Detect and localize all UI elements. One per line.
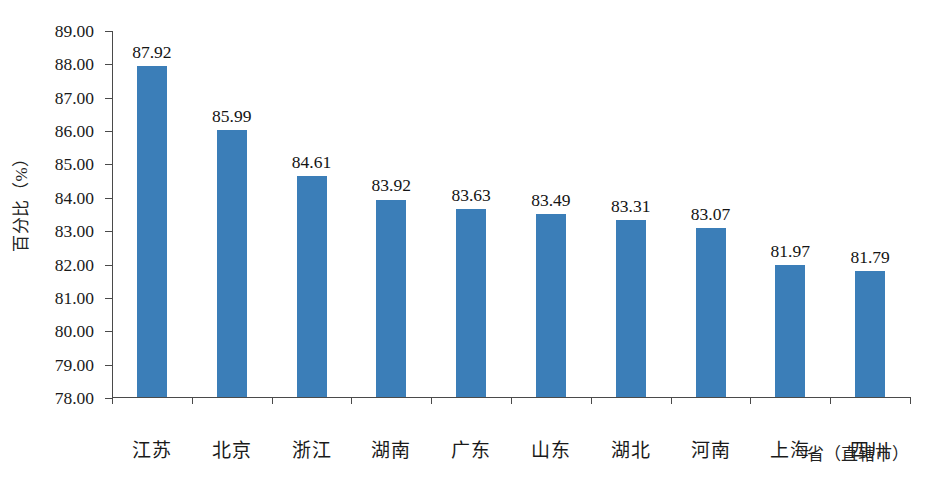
x-axis-category-label: 湖北 — [611, 435, 651, 462]
x-axis-tick — [591, 397, 592, 404]
bar — [775, 265, 805, 397]
bar-value-label: 83.63 — [451, 185, 490, 206]
bar — [456, 209, 486, 397]
y-axis-tick-label: 86.00 — [55, 121, 94, 142]
x-axis-category-label: 上海 — [770, 435, 810, 462]
bar — [137, 66, 167, 397]
y-axis-tick-label: 78.00 — [55, 388, 94, 409]
bar — [297, 176, 327, 397]
x-axis-category-label: 北京 — [212, 435, 252, 462]
y-axis-tick-label: 89.00 — [55, 21, 94, 42]
x-axis-tick — [431, 397, 432, 404]
y-axis-tick: 78.00 — [105, 398, 112, 399]
y-axis-tick: 86.00 — [105, 131, 112, 132]
x-axis-tick — [750, 397, 751, 404]
x-axis-tick — [112, 397, 113, 404]
bar-value-label: 83.92 — [372, 175, 411, 196]
bar — [376, 200, 406, 398]
y-axis-tick: 80.00 — [105, 331, 112, 332]
x-axis-tick — [910, 397, 911, 404]
bar — [696, 228, 726, 397]
y-axis-tick-label: 85.00 — [55, 154, 94, 175]
x-axis-category-label: 浙江 — [292, 435, 332, 462]
x-axis-category-label: 山东 — [531, 435, 571, 462]
y-axis-tick: 88.00 — [105, 64, 112, 65]
x-axis-category-label: 河南 — [691, 435, 731, 462]
y-axis-tick-label: 83.00 — [55, 221, 94, 242]
x-axis-category-label: 江苏 — [132, 435, 172, 462]
x-axis-tick — [192, 397, 193, 404]
bar-value-label: 81.97 — [771, 241, 810, 262]
bar-value-label: 83.07 — [691, 204, 730, 225]
y-axis-tick: 79.00 — [105, 365, 112, 366]
y-axis-tick: 89.00 — [105, 31, 112, 32]
bar-value-label: 83.31 — [611, 196, 650, 217]
bar — [616, 220, 646, 397]
y-axis-tick-label: 79.00 — [55, 354, 94, 375]
y-axis-tick: 82.00 — [105, 265, 112, 266]
bar-value-label: 84.61 — [292, 152, 331, 173]
y-axis-tick: 85.00 — [105, 164, 112, 165]
y-axis-title-text: 百分比（%） — [7, 149, 32, 251]
x-axis-tick — [830, 397, 831, 404]
y-axis-title: 百分比（%） — [2, 0, 36, 400]
y-axis-tick-label: 80.00 — [55, 321, 94, 342]
y-axis-tick: 81.00 — [105, 298, 112, 299]
y-axis-line — [112, 31, 113, 398]
x-axis-tick — [272, 397, 273, 404]
y-axis-tick-label: 87.00 — [55, 87, 94, 108]
bar-chart: 百分比（%） 89.0088.0087.0086.0085.0084.0083.… — [0, 0, 931, 491]
y-axis-tick: 87.00 — [105, 98, 112, 99]
bar — [217, 130, 247, 397]
bar — [855, 271, 885, 397]
bar-value-label: 87.92 — [132, 42, 171, 63]
x-axis-title: 省（直辖市） — [807, 440, 909, 465]
y-axis-tick: 83.00 — [105, 231, 112, 232]
y-axis-tick-label: 84.00 — [55, 187, 94, 208]
x-axis-category-label: 广东 — [451, 435, 491, 462]
bar-value-label: 83.49 — [531, 190, 570, 211]
x-axis-category-label: 湖南 — [371, 435, 411, 462]
y-axis-tick-label: 82.00 — [55, 254, 94, 275]
bar — [536, 214, 566, 397]
y-axis-tick-label: 81.00 — [55, 287, 94, 308]
bar-value-label: 81.79 — [850, 247, 889, 268]
y-axis-tick: 84.00 — [105, 198, 112, 199]
y-axis-tick-label: 88.00 — [55, 54, 94, 75]
x-axis-tick — [511, 397, 512, 404]
plot-area: 89.0088.0087.0086.0085.0084.0083.0082.00… — [112, 31, 910, 398]
bar-value-label: 85.99 — [212, 106, 251, 127]
x-axis-tick — [351, 397, 352, 404]
x-axis-tick — [671, 397, 672, 404]
